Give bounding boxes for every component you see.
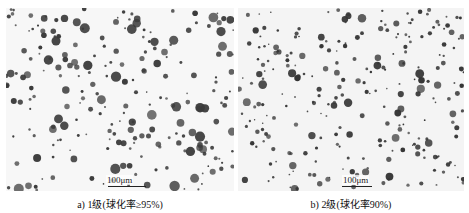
scale-bar-line-a [108, 186, 146, 187]
graphite-nodules-image-a [6, 8, 234, 191]
scale-bar-line-b [342, 186, 372, 187]
scale-bar-label-b: 100μm [342, 175, 369, 185]
micrograph-panel-b: 100μm [238, 8, 464, 191]
caption-a: a) 1级(球化率≥95%) [6, 196, 234, 211]
scale-bar-label-a: 100μm [106, 175, 133, 185]
caption-b: b) 2级(球化率90%) [238, 196, 464, 211]
graphite-nodules-image-b [238, 8, 464, 191]
micrograph-panel-a: 100μm [6, 8, 234, 191]
